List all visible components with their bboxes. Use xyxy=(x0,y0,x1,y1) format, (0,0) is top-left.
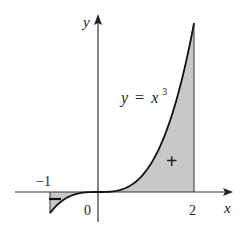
cubic-area-chart: y x −1 0 2 y = x 3 + xyxy=(0,0,245,226)
curve-label-exponent: 3 xyxy=(162,86,167,97)
tick-label-neg1: −1 xyxy=(36,174,51,189)
curve-label-eq: = xyxy=(135,89,144,106)
plus-sign-marker: + xyxy=(166,150,177,172)
curve-label: y = x 3 xyxy=(119,86,167,107)
curve-label-lhs: y xyxy=(119,89,129,107)
x-axis-label: x xyxy=(223,200,231,216)
positive-area-region xyxy=(98,23,194,192)
y-axis-label: y xyxy=(81,14,90,30)
tick-label-0: 0 xyxy=(84,203,91,218)
tick-label-2: 2 xyxy=(189,203,196,218)
curve-label-base: x xyxy=(150,89,158,106)
